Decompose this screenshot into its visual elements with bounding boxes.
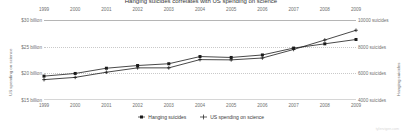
legend-label-1: US spending on science — [210, 114, 264, 120]
x-axis-top-tick-2003: 2003 — [164, 7, 174, 12]
y-axis-right-tick-0: 10000 suicides — [358, 18, 400, 23]
x-axis-top-tick-2004: 2004 — [195, 7, 205, 12]
x-axis-bottom-tick-2007: 2007 — [288, 103, 298, 108]
series-line-1 — [44, 30, 356, 79]
data-point-1-2003 — [167, 66, 171, 70]
plus-marker-icon — [200, 114, 207, 121]
watermark: tylervigen.com — [376, 127, 399, 131]
legend-item-hanging-suicides[interactable]: Hanging suicides — [138, 114, 186, 121]
x-axis-top-tick-2002: 2002 — [132, 7, 142, 12]
y-axis-right-title: Hanging suicides — [396, 63, 401, 96]
data-point-0-2001 — [105, 67, 108, 70]
y-axis-right-tick-2: 6000 suicides — [358, 71, 400, 76]
x-axis-bottom-tick-2000: 2000 — [70, 103, 80, 108]
x-axis-top-tick-2009: 2009 — [351, 7, 361, 12]
x-axis-top-tick-1999: 1999 — [39, 7, 49, 12]
data-point-0-2009 — [355, 38, 358, 41]
data-point-1-2001 — [105, 70, 109, 74]
spurious-correlation-chart: Hanging suicides correlates with US spen… — [0, 0, 402, 132]
x-axis-top-tick-2000: 2000 — [70, 7, 80, 12]
data-point-0-2003 — [167, 62, 170, 65]
x-axis-top-tick-2005: 2005 — [226, 7, 236, 12]
data-point-0-1999 — [43, 75, 46, 78]
legend-item-us-spending-on-science[interactable]: US spending on science — [200, 114, 264, 121]
square-marker-icon — [138, 114, 145, 121]
plot-area — [44, 20, 356, 100]
chart-legend: Hanging suicides US spending on science — [0, 114, 402, 121]
x-axis-bottom-tick-2004: 2004 — [195, 103, 205, 108]
x-axis-bottom-tick-2001: 2001 — [101, 103, 111, 108]
x-axis-bottom-tick-2008: 2008 — [320, 103, 330, 108]
x-axis-top-tick-2001: 2001 — [101, 7, 111, 12]
y-axis-right-tick-1: 8000 suicides — [358, 44, 400, 49]
data-point-1-1999 — [42, 78, 46, 82]
x-axis-top-tick-2007: 2007 — [288, 7, 298, 12]
data-point-1-2006 — [261, 56, 265, 60]
y-axis-left-tick-0: $30 billion — [2, 18, 42, 23]
data-point-0-2008 — [323, 42, 326, 45]
data-point-1-2008 — [323, 38, 327, 42]
data-point-1-2004 — [198, 58, 202, 62]
data-point-1-2000 — [73, 76, 77, 80]
y-axis-left-tick-3: $15 billion — [2, 98, 42, 103]
series-lines — [44, 20, 356, 100]
x-axis-bottom-tick-1999: 1999 — [39, 103, 49, 108]
data-point-1-2009 — [354, 28, 358, 32]
x-axis-bottom-tick-2003: 2003 — [164, 103, 174, 108]
x-axis-top-tick-2008: 2008 — [320, 7, 330, 12]
x-axis-bottom-tick-2005: 2005 — [226, 103, 236, 108]
data-point-0-2006 — [261, 53, 264, 56]
y-axis-right-tick-3: 4000 suicides — [358, 98, 400, 103]
y-axis-left-title: US spending on science — [8, 49, 13, 96]
x-axis-top-tick-2006: 2006 — [257, 7, 267, 12]
data-point-0-2004 — [199, 55, 202, 58]
chart-title: Hanging suicides correlates with US spen… — [0, 0, 402, 4]
data-point-0-2000 — [74, 72, 77, 75]
x-axis-bottom-tick-2002: 2002 — [132, 103, 142, 108]
x-axis-bottom-tick-2009: 2009 — [351, 103, 361, 108]
legend-label-0: Hanging suicides — [148, 114, 186, 120]
x-axis-bottom-tick-2006: 2006 — [257, 103, 267, 108]
